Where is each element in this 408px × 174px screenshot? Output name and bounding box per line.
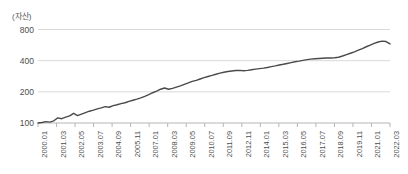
x-tick-label: 2002.05 [78,131,85,158]
y-tick-label: 100 [0,119,34,128]
x-tick-label: 2010.07 [208,131,215,158]
x-tick-label: 2017.07 [319,131,326,158]
series-line-assets [38,41,390,123]
y-tick-label: 400 [0,56,34,65]
x-tick-label: 2007.01 [152,131,159,158]
x-tick-label: 2004.09 [115,131,122,158]
y-tick-label: 800 [0,25,34,34]
x-tick-label: 2001.03 [60,131,67,158]
y-tick-label: 200 [0,88,34,97]
x-tick-label: 2018.09 [337,131,344,158]
x-tick-label: 2009.05 [189,131,196,158]
asset-index-line-chart: (자산) 800400200100 2000.012001.032002.052… [0,0,408,174]
x-tick-label: 2003.07 [97,131,104,158]
x-tick-label: 2014.01 [263,131,270,158]
x-tick-label: 2022.03 [393,131,400,158]
x-tick-label: 2011.09 [226,131,233,157]
x-tick-label: 2019.11 [356,131,363,157]
x-tick-label: 2005.11 [134,131,141,157]
x-tick-label: 2008.03 [171,131,178,158]
x-tick-label: 2021.01 [374,131,381,158]
gridline-group [38,30,390,124]
x-tick-mark-group [38,123,390,127]
x-tick-label: 2012.11 [245,131,252,157]
x-tick-label: 2000.01 [41,131,48,158]
x-tick-label: 2015.03 [282,131,289,158]
x-tick-label: 2016.05 [300,131,307,158]
